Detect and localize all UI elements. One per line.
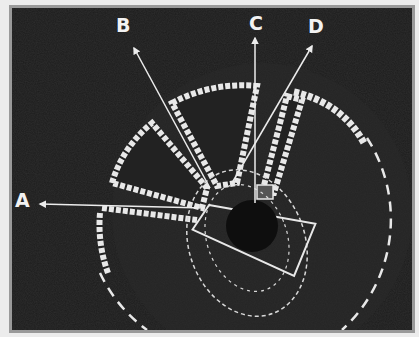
label-a: A (15, 191, 30, 210)
label-c: C (249, 14, 263, 33)
small-square-block (257, 185, 273, 199)
diagram-plate: A B C D (12, 8, 412, 330)
label-b: B (116, 16, 130, 35)
label-d: D (308, 17, 324, 36)
site-plan-drawing (12, 8, 412, 330)
central-pit (226, 200, 278, 252)
